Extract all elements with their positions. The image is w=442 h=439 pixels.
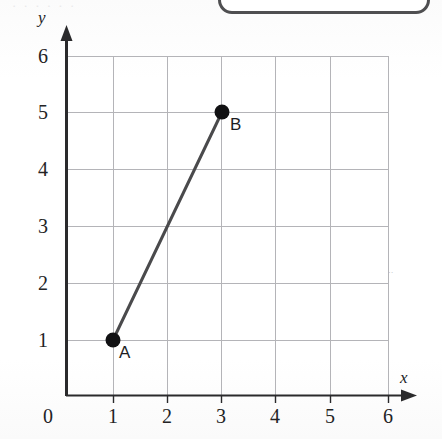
paper-smudge-mark: ·· [388, 271, 394, 275]
x-tick-2: 2 [154, 405, 180, 428]
coordinate-plot [0, 0, 442, 439]
y-tick-4: 4 [30, 158, 56, 181]
y-axis-label: y [38, 8, 46, 28]
point-a-label: A [119, 343, 130, 363]
point-b-marker [215, 105, 230, 120]
x-axis [66, 390, 417, 402]
x-tick-3: 3 [208, 405, 234, 428]
x-tick-1: 1 [100, 405, 126, 428]
origin-tick-0: 0 [35, 405, 61, 428]
x-tick-4: 4 [262, 405, 288, 428]
y-tick-1: 1 [30, 329, 56, 352]
x-tick-marks [114, 396, 389, 403]
x-tick-6: 6 [375, 405, 401, 428]
y-tick-5: 5 [30, 101, 56, 124]
grid-horizontal [66, 57, 389, 341]
point-b-label: B [230, 115, 241, 135]
x-axis-label: x [400, 368, 408, 388]
y-tick-3: 3 [30, 215, 56, 238]
y-tick-2: 2 [30, 272, 56, 295]
y-tick-6: 6 [30, 45, 56, 68]
x-tick-5: 5 [317, 405, 343, 428]
